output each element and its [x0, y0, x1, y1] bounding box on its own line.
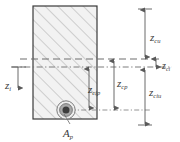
cross-section-diagram: zcu zci zciu zcp zcip zi Ap — [0, 0, 180, 142]
tendon-area — [57, 101, 75, 119]
label-tendon-area: Ap — [63, 124, 73, 140]
label-z-ci: zci — [162, 56, 170, 72]
label-z-ciu: zciu — [149, 83, 161, 99]
dimension-z-i — [11, 67, 26, 88]
label-z-cp: zcp — [117, 74, 127, 90]
label-z-cip: zcip — [88, 80, 100, 96]
diagram-canvas — [0, 0, 180, 142]
label-z-i: zi — [5, 76, 11, 92]
label-z-cu: zcu — [150, 28, 160, 44]
